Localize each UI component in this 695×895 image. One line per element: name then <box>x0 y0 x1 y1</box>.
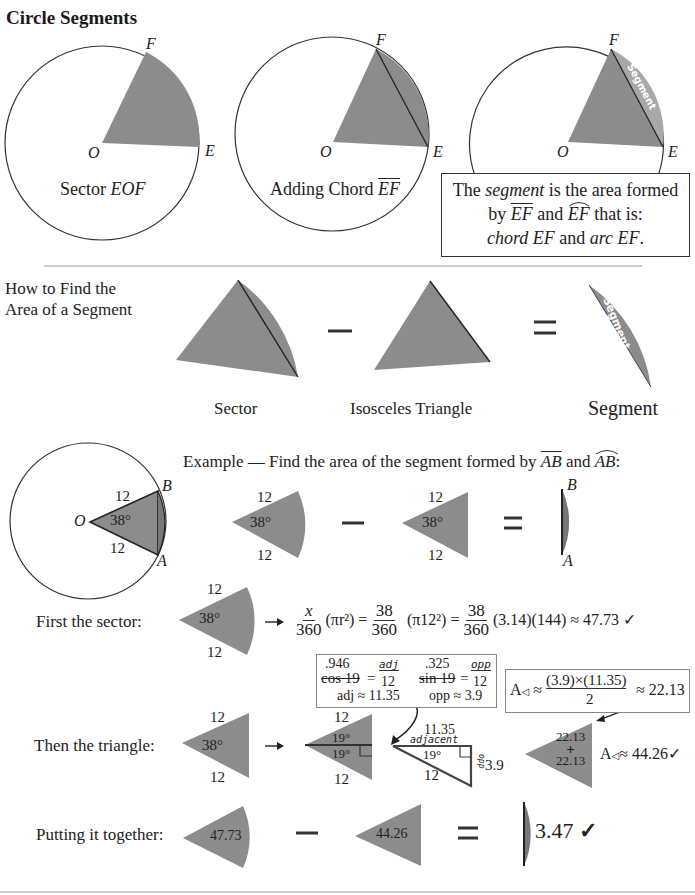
angle-label: 38° <box>422 515 443 530</box>
label-F: F <box>376 32 386 48</box>
first-sector-label: First the sector: <box>36 613 142 630</box>
area-denominator: 2 <box>586 692 594 707</box>
label-sector: Sector <box>214 400 257 417</box>
area-box: A◁ ≈ (3.9)×(11.35) 2 ≈ 22.13 <box>505 669 690 713</box>
triangle-area-value: 44.26 <box>376 827 408 841</box>
half-area-bottom: 22.13 <box>556 754 585 768</box>
circle-panel-sector <box>5 46 199 240</box>
angle-label: 38° <box>199 611 220 626</box>
caption-sector-eof: Sector EOF <box>60 180 145 198</box>
howto-heading-line-1: How to Find the <box>5 278 132 299</box>
circle-panel-chord <box>235 37 429 231</box>
label-E: E <box>205 143 215 159</box>
half-angle-label: 19° <box>332 731 350 744</box>
half-angle-label: 19° <box>332 747 350 760</box>
example-circle <box>10 443 166 599</box>
label-A: A <box>157 553 167 569</box>
together-segment-shape <box>524 802 531 866</box>
label-F: F <box>609 32 619 48</box>
area-numerator: (3.9)×(11.35) <box>546 673 626 689</box>
adjacent-word: adjacent <box>410 735 458 745</box>
example-segment-shape <box>562 489 569 555</box>
definition-box: The segment is the area formed by EF and… <box>441 173 690 257</box>
angle-label: 38° <box>202 738 223 753</box>
arc-notation: AB <box>595 452 616 471</box>
definition-line-3: chord EF and arc EF. <box>442 226 689 250</box>
howto-segment-shape: Segment <box>589 285 651 387</box>
hypotenuse-label: 12 <box>424 768 439 783</box>
right-angle-label: 19° <box>423 748 441 761</box>
cos-value: .946 <box>325 657 350 671</box>
opp-result: opp ≈ 3.9 <box>429 689 482 703</box>
label-E: E <box>668 144 678 160</box>
label-A: A <box>563 553 573 569</box>
radius-label: 12 <box>207 645 222 660</box>
angle-label: 38° <box>110 513 131 528</box>
trig-box: .946 cos 19 = adj 12 .325 sin 19 = opp 1… <box>316 654 497 708</box>
opposite-value: 3.9 <box>485 758 504 773</box>
then-triangle-label: Then the triangle: <box>34 737 155 754</box>
sin-label: sin 19 <box>419 671 455 686</box>
radius-label: 12 <box>334 710 349 725</box>
arrow-icon <box>265 742 284 750</box>
svg-text:Segment: Segment <box>600 295 633 351</box>
label-E: E <box>433 144 443 160</box>
arrow-icon <box>265 618 284 626</box>
angle-label: 38° <box>250 515 271 530</box>
radius-label: 12 <box>428 548 443 563</box>
opp-word: opp <box>471 659 491 671</box>
page-title: Circle Segments <box>6 8 137 27</box>
triangle-total: A◁≈ 44.26✓ <box>600 746 681 762</box>
radius-label: 12 <box>207 582 222 597</box>
equals: = <box>367 671 375 686</box>
segment-area-result: 3.47 ✓ <box>535 820 597 842</box>
label-O: O <box>557 144 569 160</box>
definition-line-1: The segment is the area formed <box>442 178 689 202</box>
radius-label: 12 <box>428 490 443 505</box>
adj-word: adj <box>379 659 399 671</box>
arrow-head-icon <box>391 735 400 745</box>
label-B: B <box>567 477 577 493</box>
equals-sign <box>458 828 478 838</box>
label-O: O <box>320 144 332 160</box>
equals-sign <box>504 518 522 528</box>
label-O: O <box>88 145 100 161</box>
radius-label: 12 <box>210 770 225 785</box>
radius-label: 12 <box>257 490 272 505</box>
cos-label: cos 19 <box>321 671 360 686</box>
howto-heading-line-2: Area of a Segment <box>5 299 132 320</box>
label-O: O <box>74 513 86 529</box>
howto-triangle-shape <box>374 281 490 370</box>
area-lhs: A◁ ≈ <box>510 682 542 698</box>
example-prompt: Example — Find the area of the segment f… <box>183 453 620 470</box>
radius-label: 12 <box>334 772 349 787</box>
arc-notation: EF <box>568 204 590 224</box>
adj-result: adj ≈ 11.35 <box>337 689 400 703</box>
caption-adding-chord: Adding Chord EF <box>270 180 400 198</box>
check-icon: ✓ <box>579 818 597 843</box>
equals: = <box>460 671 468 686</box>
label-B: B <box>162 478 172 494</box>
denominator: 12 <box>473 675 487 689</box>
opp-word: opp <box>477 754 485 768</box>
label-F: F <box>146 36 156 52</box>
radius-label: 12 <box>115 489 130 504</box>
combined-values: 22.13 + 22.13 <box>556 730 585 768</box>
denominator: 12 <box>381 675 395 689</box>
sin-value: .325 <box>425 657 450 671</box>
area-result: ≈ 22.13 <box>636 682 685 698</box>
equals-sign <box>534 322 556 333</box>
label-isosceles-triangle: Isosceles Triangle <box>350 400 472 417</box>
sector-area-value: 47.73 <box>210 829 242 843</box>
radius-label: 12 <box>110 541 125 556</box>
radius-label: 12 <box>210 710 225 725</box>
radius-label: 12 <box>257 548 272 563</box>
together-label: Putting it together: <box>36 826 164 843</box>
sector-formula: x360 (πr²) = 38360 (π12²) = 38360 (3.14)… <box>296 602 636 639</box>
howto-sector-shape <box>176 280 298 377</box>
howto-heading: How to Find the Area of a Segment <box>5 278 132 320</box>
label-segment: Segment <box>588 398 658 418</box>
definition-line-2: by EF and EF that is: <box>442 202 689 226</box>
arrow-head-icon <box>596 715 605 722</box>
